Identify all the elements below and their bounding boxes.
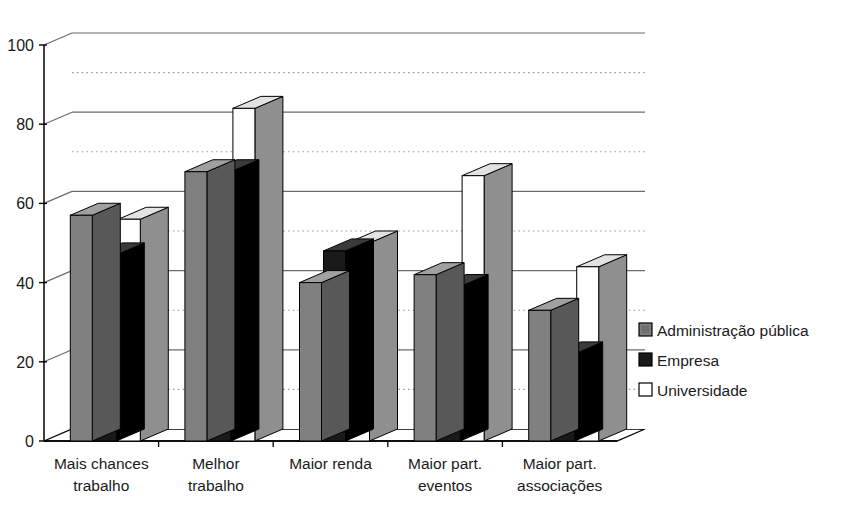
bar-front-face [300, 283, 322, 441]
bar-4-1 [414, 263, 464, 441]
bar-side-face [322, 271, 350, 441]
bar-side-face [436, 263, 464, 441]
bar-3-1 [300, 271, 350, 441]
legend-swatch-inner [642, 326, 650, 334]
y-tick-label: 40 [16, 275, 34, 292]
legend-item-1[interactable]: Administração pública [639, 322, 809, 339]
x-category-label-line2: associações [517, 477, 603, 494]
gridline-depth-connector [44, 112, 72, 124]
x-category-label: Melhor [192, 455, 239, 472]
legend-label: Administração pública [657, 322, 809, 339]
legend-swatch [639, 383, 652, 396]
legend-item-2[interactable]: Empresa [639, 352, 719, 369]
bar-front-face [185, 172, 207, 441]
y-tick-label: 100 [7, 37, 34, 54]
gridline-depth-connector [44, 350, 72, 362]
gridline-depth-connector [44, 191, 72, 203]
x-category-label-line2: eventos [418, 477, 473, 494]
x-category-label-line2: trabalho [188, 477, 244, 494]
gridline-depth-connector [44, 271, 72, 283]
bar-side-face [551, 298, 579, 441]
x-category-label-line2: trabalho [73, 477, 129, 494]
bar-front-face [529, 310, 551, 441]
bar-1-1 [70, 203, 120, 441]
x-category-label: Maior renda [289, 455, 372, 472]
x-category-label: Maior part. [408, 455, 482, 472]
x-category-label: Maior part. [523, 455, 597, 472]
legend-label: Universidade [657, 382, 747, 399]
y-tick-label: 20 [16, 354, 34, 371]
chart-canvas: 020406080100Mais chancestrabalhoMelhortr… [0, 0, 847, 519]
bar-side-face [207, 160, 235, 441]
y-tick-label: 0 [25, 433, 34, 450]
legend-label: Empresa [657, 352, 719, 369]
bar-2-1 [185, 160, 235, 441]
legend-item-3[interactable]: Universidade [639, 382, 747, 399]
bar-front-face [70, 215, 92, 441]
bar-chart: 020406080100Mais chancestrabalhoMelhortr… [0, 0, 847, 519]
y-tick-label: 80 [16, 116, 34, 133]
bar-5-1 [529, 298, 579, 441]
bar-side-face [92, 203, 120, 441]
y-tick-label: 60 [16, 195, 34, 212]
gridline-depth-connector [44, 33, 72, 45]
legend-swatch [639, 353, 652, 366]
x-category-label: Mais chances [54, 455, 149, 472]
bar-front-face [414, 275, 436, 441]
